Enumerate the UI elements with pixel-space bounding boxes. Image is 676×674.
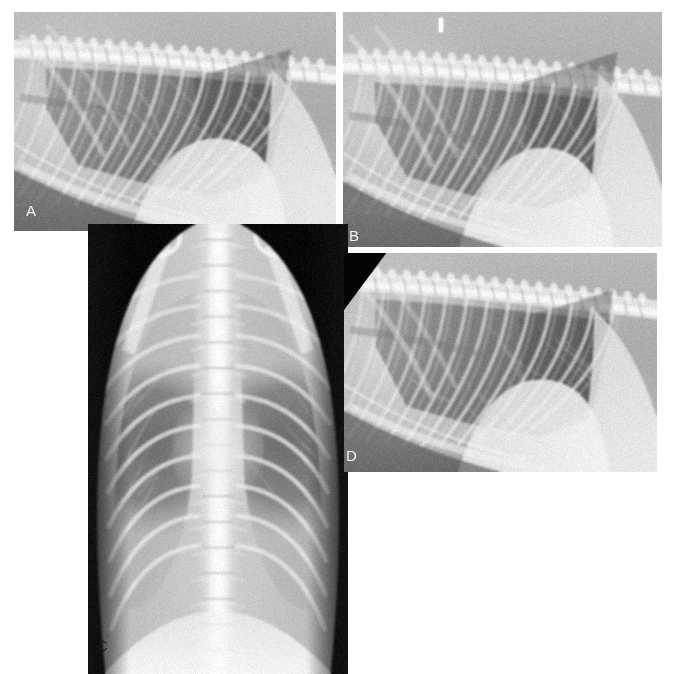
radiograph-image-b [343, 12, 662, 247]
radiopaque-marker-icon [439, 18, 443, 32]
panel-b[interactable] [343, 12, 662, 247]
panel-c[interactable] [88, 224, 348, 674]
panel-a[interactable] [14, 12, 336, 231]
radiograph-image-c [88, 224, 348, 674]
panel-d[interactable] [344, 253, 657, 472]
radiograph-image-a [14, 12, 336, 231]
radiograph-image-d [344, 253, 657, 472]
radiograph-figure: A B C D [0, 0, 676, 674]
